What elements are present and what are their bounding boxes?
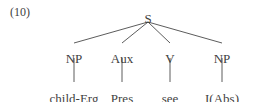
tree-node-np-object: NP — [214, 52, 231, 65]
tree-branch-0 — [74, 22, 148, 43]
tree-node-root-s: S — [144, 12, 151, 25]
tree-terminal-i-abs: I(Abs) — [205, 92, 239, 102]
syntax-tree-figure: (10) S NP Aux V NP child-Erg Pres see I(… — [0, 0, 253, 102]
tree-node-np-subject: NP — [66, 52, 83, 65]
tree-terminal-child-erg: child-Erg — [50, 92, 99, 102]
tree-node-v: V — [165, 52, 174, 65]
tree-node-aux: Aux — [111, 52, 133, 65]
tree-terminal-pres: Pres — [111, 92, 133, 102]
tree-terminal-see: see — [162, 92, 179, 102]
